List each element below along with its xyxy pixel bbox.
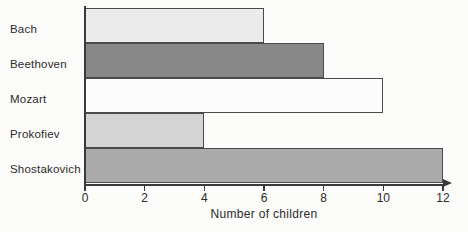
- bar-prokofiev: [85, 113, 204, 148]
- category-label-bach: Bach: [10, 24, 37, 36]
- x-axis-title: Number of children: [85, 208, 443, 220]
- bar-bach: [85, 8, 264, 43]
- category-label-beethoven: Beethoven: [10, 59, 67, 71]
- x-tick-label-4: 4: [201, 192, 208, 204]
- bar-mozart: [85, 78, 383, 113]
- x-tick-label-8: 8: [320, 192, 327, 204]
- x-tick-label-6: 6: [261, 192, 268, 204]
- x-axis-arrow-icon: [443, 179, 452, 187]
- bar-beethoven: [85, 43, 324, 78]
- category-label-prokofiev: Prokofiev: [10, 129, 60, 141]
- x-tick-label-10: 10: [377, 192, 390, 204]
- plot-area: [85, 8, 443, 185]
- x-tick-label-2: 2: [141, 192, 148, 204]
- x-tick-label-12: 12: [436, 192, 449, 204]
- category-label-shostakovich: Shostakovich: [10, 164, 81, 176]
- bar-shostakovich: [85, 148, 443, 183]
- category-label-mozart: Mozart: [10, 94, 46, 106]
- bar-chart-figure: Bach Beethoven Mozart Prokofiev Shostako…: [0, 0, 468, 232]
- x-tick-label-0: 0: [82, 192, 89, 204]
- y-axis-line: [84, 6, 86, 186]
